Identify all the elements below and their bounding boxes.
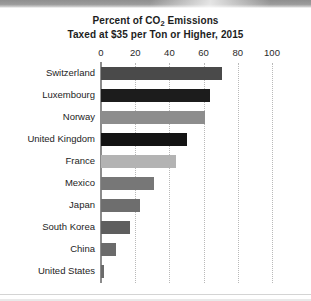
bar (101, 199, 140, 212)
bar-row: United Kingdom (101, 129, 272, 151)
x-tick-label-20: 20 (130, 47, 141, 58)
bar (101, 111, 205, 124)
category-label: China (70, 241, 95, 256)
x-tick-label-40: 40 (164, 47, 175, 58)
top-band-streak (150, 0, 270, 8)
category-label: Norway (63, 109, 95, 124)
bar (101, 89, 210, 102)
x-tick-label-100: 100 (264, 47, 280, 58)
gridline-100 (272, 63, 273, 283)
chart-title: Percent of CO2 Emissions Taxed at $35 pe… (0, 14, 311, 41)
bar-row: Mexico (101, 173, 272, 195)
plot-area: 020406080100SwitzerlandLuxembourgNorwayU… (101, 63, 272, 283)
bar-row: China (101, 239, 272, 261)
bar (101, 221, 130, 234)
bar-row: United States (101, 261, 272, 283)
bar-row: Switzerland (101, 63, 272, 85)
bottom-divider (0, 294, 311, 295)
bar-row: Luxembourg (101, 85, 272, 107)
bar (101, 243, 116, 256)
co2-subscript: 2 (160, 19, 164, 28)
category-label: South Korea (42, 219, 95, 234)
x-tick-label-0: 0 (98, 47, 103, 58)
bar-row: South Korea (101, 217, 272, 239)
bar (101, 265, 104, 278)
chart-title-line1: Percent of CO2 Emissions (92, 15, 218, 26)
category-label: Mexico (65, 175, 95, 190)
category-label: United States (38, 263, 95, 278)
bar-row: Japan (101, 195, 272, 217)
category-label: United Kingdom (27, 131, 95, 146)
bar (101, 177, 154, 190)
category-label: France (65, 153, 95, 168)
top-gray-band (0, 0, 311, 8)
bar (101, 155, 176, 168)
category-label: Switzerland (46, 65, 95, 80)
chart-title-line2: Taxed at $35 per Ton or Higher, 2015 (67, 29, 243, 40)
chart-figure: Percent of CO2 Emissions Taxed at $35 pe… (0, 0, 311, 301)
category-label: Japan (69, 197, 95, 212)
x-tick-label-80: 80 (233, 47, 244, 58)
bar-row: Norway (101, 107, 272, 129)
bar-row: France (101, 151, 272, 173)
x-tick-label-60: 60 (198, 47, 209, 58)
bar (101, 133, 187, 146)
category-label: Luxembourg (42, 87, 95, 102)
bar (101, 67, 222, 80)
